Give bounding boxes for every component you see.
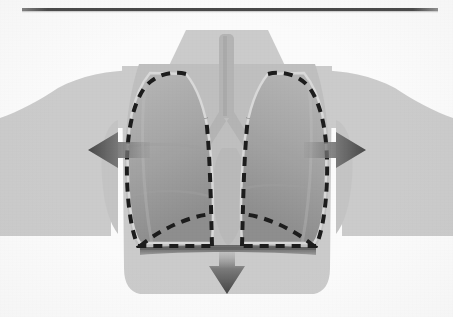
print-wash-overlay <box>0 0 453 317</box>
figure-container: Lungs expanding inside rib cage with dia… <box>0 0 453 317</box>
anatomy-illustration <box>0 0 453 317</box>
